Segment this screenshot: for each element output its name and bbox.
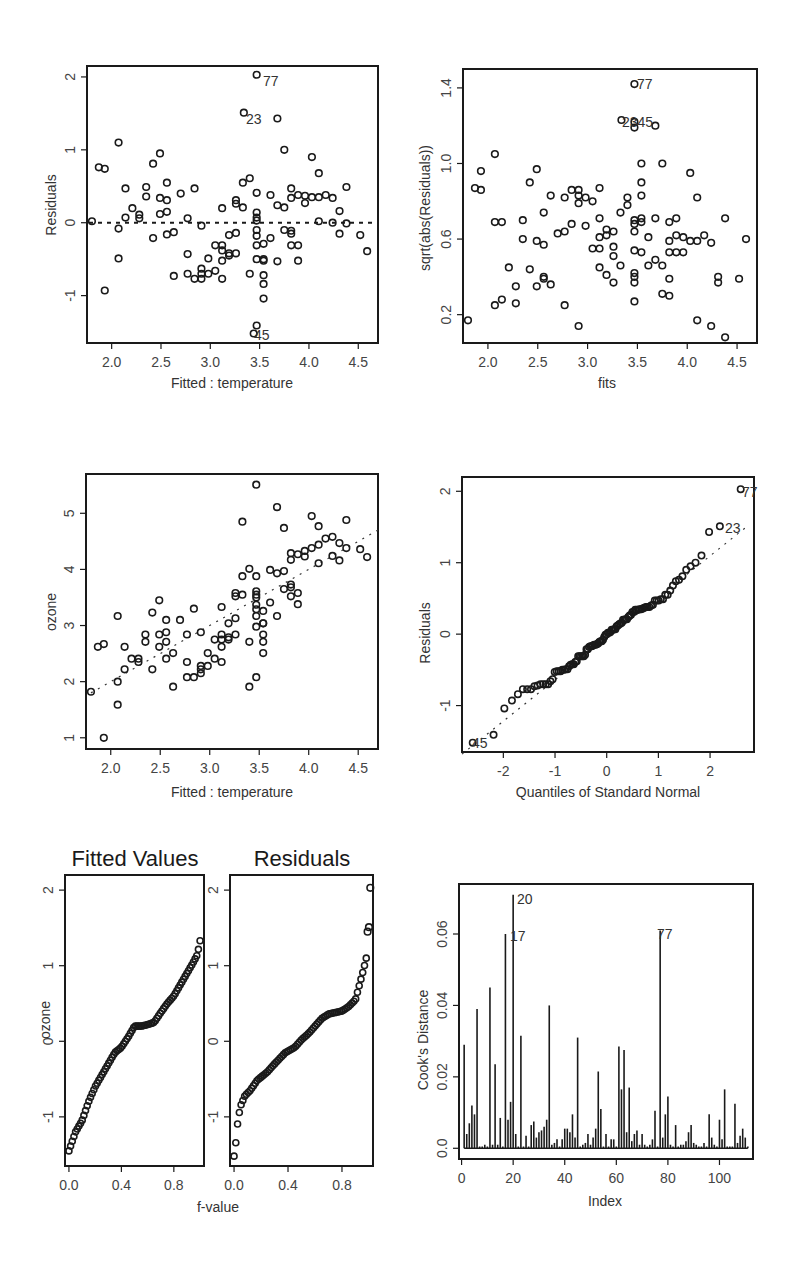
data-point: [617, 262, 624, 269]
data-point: [329, 534, 336, 541]
axis-ticks: 2.02.53.03.54.04.50.20.61.01.4: [438, 78, 747, 370]
data-point: [638, 192, 645, 199]
data-point: [197, 938, 203, 944]
data-point: [666, 275, 673, 282]
data-point: [708, 240, 715, 247]
y-tick-label: 2: [205, 886, 221, 894]
diagnostic-plots-canvas: 2.02.53.03.54.04.5-1012 77 23 45 Fitted …: [0, 0, 800, 1275]
y-tick-label: 5: [61, 509, 77, 517]
data-point: [218, 644, 225, 651]
x-tick-label: 0.4: [112, 1177, 132, 1193]
data-point: [499, 219, 506, 226]
x-tick-label: 0: [458, 1170, 466, 1186]
data-point: [513, 300, 520, 307]
data-point: [302, 192, 309, 199]
data-point: [122, 185, 129, 192]
data-point: [191, 276, 198, 283]
data-point: [673, 249, 680, 256]
x-axis-label: Quantiles of Standard Normal: [516, 784, 700, 800]
data-point: [736, 275, 743, 282]
data-point: [706, 529, 712, 535]
data-point: [184, 674, 191, 681]
x-tick-label: 2.0: [478, 354, 498, 370]
data-point: [295, 257, 302, 264]
data-point: [212, 268, 219, 275]
data-point: [260, 650, 267, 657]
data-point: [274, 613, 281, 620]
data-point: [260, 639, 267, 646]
data-point: [260, 281, 267, 288]
data-point: [157, 195, 164, 202]
y-tick-label: 2: [40, 886, 56, 894]
x-tick-label: 2.5: [151, 354, 171, 370]
x-tick-label: 0.8: [164, 1177, 184, 1193]
data-point: [603, 272, 610, 279]
x-tick-label: 2.0: [101, 760, 121, 776]
bars: [464, 895, 748, 1149]
data-point: [533, 166, 540, 173]
data-point: [211, 636, 218, 643]
data-point: [170, 650, 177, 657]
data-point: [492, 151, 499, 158]
x-tick-label: 3.0: [578, 354, 598, 370]
data-point: [343, 517, 350, 524]
y-tick-label: 3: [61, 621, 77, 629]
data-point: [164, 231, 171, 238]
data-point: [288, 593, 295, 600]
data-point: [164, 179, 171, 186]
data-point: [115, 139, 122, 146]
y-tick-label: 0: [437, 630, 453, 638]
data-point: [233, 250, 240, 257]
data-point: [631, 247, 638, 254]
data-point: [204, 663, 211, 670]
data-point: [177, 617, 184, 624]
data-point: [226, 232, 233, 239]
x-tick-label: 4.5: [349, 354, 369, 370]
data-point: [150, 235, 157, 242]
data-point: [253, 674, 260, 681]
data-point: [281, 204, 288, 211]
data-point: [315, 523, 322, 530]
data-point: [114, 613, 121, 620]
data-point: [191, 674, 198, 681]
outlier-label-23-45: 2345: [622, 114, 653, 130]
data-point: [156, 631, 163, 638]
data-point: [267, 599, 274, 606]
data-point: [157, 150, 164, 157]
x-tick-label: 2.5: [528, 354, 548, 370]
data-point: [240, 179, 247, 186]
x-tick-label: 4.0: [299, 354, 319, 370]
data-point: [638, 160, 645, 167]
data-point: [561, 228, 568, 235]
data-point: [743, 236, 750, 243]
x-tick-label: 2: [706, 763, 714, 779]
data-point: [659, 262, 666, 269]
y-tick-label: 0.0: [434, 1138, 450, 1158]
data-point: [336, 540, 343, 547]
data-point: [115, 255, 122, 262]
data-point: [274, 115, 281, 122]
data-point: [526, 179, 533, 186]
data-point: [164, 208, 171, 215]
y-tick-label: 1: [40, 962, 56, 970]
data-point: [547, 281, 554, 288]
plot-frame-residuals: [230, 875, 373, 1166]
x-axis-label: Fitted : temperature: [171, 375, 293, 391]
x-tick-label: 3.0: [201, 354, 221, 370]
response-vs-fitted-panel: 2.02.53.03.54.04.512345 Fitted : tempera…: [43, 474, 378, 800]
data-point: [236, 1109, 242, 1115]
x-tick-label: 4.5: [348, 760, 368, 776]
data-point: [540, 209, 547, 216]
data-point: [164, 197, 171, 204]
data-point: [246, 639, 253, 646]
data-point: [617, 209, 624, 216]
data-point: [195, 946, 201, 952]
y-tick-label: 2: [437, 487, 453, 495]
data-point: [513, 283, 520, 290]
data-point: [267, 192, 274, 199]
data-point: [624, 194, 631, 201]
data-point: [219, 276, 226, 283]
data-point: [354, 989, 360, 995]
data-point: [163, 617, 170, 624]
y-axis-label: Residuals: [43, 174, 59, 235]
